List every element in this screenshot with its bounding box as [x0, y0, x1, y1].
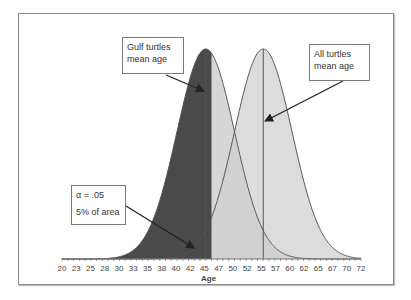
- x-tick-label: 25: [86, 264, 95, 273]
- x-tick-label: 38: [157, 264, 166, 273]
- x-tick-label: 35: [143, 264, 152, 273]
- x-tick-label: 20: [58, 264, 67, 273]
- x-tick-label: 57: [271, 264, 280, 273]
- x-tick-label: 28: [100, 264, 109, 273]
- x-tick-label: 70: [342, 264, 351, 273]
- gulf-annotation-line1: Gulf turtles: [127, 41, 179, 53]
- x-tick-label: 67: [328, 264, 337, 273]
- x-tick-label: 55: [257, 264, 266, 273]
- x-tick-label: 50: [228, 264, 237, 273]
- x-tick-label: 47: [214, 264, 223, 273]
- x-tick-label: 45: [200, 264, 209, 273]
- alpha-annotation-line1: α = .05: [76, 189, 121, 201]
- x-tick-label: 42: [186, 264, 195, 273]
- x-axis-title: Age: [201, 274, 217, 283]
- alpha-annotation-line2: 5% of area: [76, 206, 121, 218]
- all-annotation-line2: mean age: [314, 60, 365, 72]
- gulf-annotation-line2: mean age: [127, 53, 179, 65]
- alpha-annotation: α = .05 5% of area: [71, 185, 126, 225]
- x-tick-label: 23: [72, 264, 81, 273]
- x-tick-label: 33: [129, 264, 138, 273]
- x-tick-label: 40: [171, 264, 180, 273]
- all-mean-annotation: All turtles mean age: [309, 44, 370, 81]
- x-tick-label: 72: [357, 264, 366, 273]
- gulf-mean-annotation: Gulf turtles mean age: [122, 37, 184, 74]
- x-tick-label: 65: [314, 264, 323, 273]
- x-tick-label: 52: [243, 264, 252, 273]
- all-annotation-line1: All turtles: [314, 48, 365, 60]
- x-tick-label: 30: [114, 264, 123, 273]
- x-tick-label: 60: [285, 264, 294, 273]
- x-tick-label: 62: [300, 264, 309, 273]
